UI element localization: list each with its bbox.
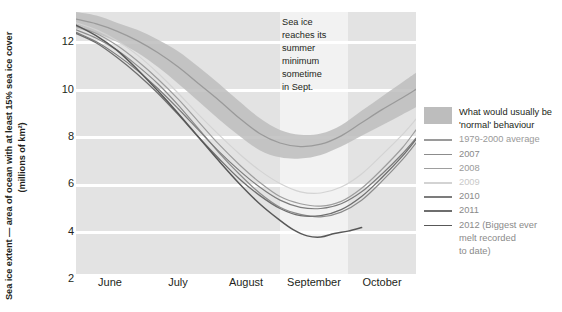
plot-area: Sea ice reaches its summer minimum somet… [76,12,416,274]
annotation-line-6: in Sept. [282,81,346,94]
x-tick-september: September [287,276,341,288]
legend-swatch-2008 [424,162,452,175]
legend-label-2007: 2007 [459,148,480,161]
y-axis-title-line-2-text: (millions of km²) [17,42,27,274]
chart-figure: Sea ice extent — area of ocean with at l… [0,0,562,312]
legend-label-2012-line-1: 2012 (Biggest ever [459,219,537,232]
legend-swatch-2009 [424,176,452,189]
legend-label-average: 1979-2000 average [459,133,540,146]
y-tick-8: 8 [50,131,74,142]
y-tick-6: 6 [50,178,74,189]
y-axis-tick-labels: 12 10 8 6 4 2 [46,0,74,312]
legend-label-2008: 2008 [459,162,480,175]
x-tick-august: August [229,276,263,288]
legend-swatch-2011 [424,204,452,217]
legend-label-normal-band-line-1: What would usually be [459,106,552,119]
annotation-line-4: minimum [282,55,346,68]
legend-item-2011: 2011 [424,204,560,217]
normal-range-band [76,12,416,159]
y-axis-title: Sea ice extent — area of ocean with at l… [0,0,46,300]
legend-swatch-average [424,133,452,146]
legend-item-2010: 2010 [424,190,560,203]
y-tick-10: 10 [50,84,74,95]
legend-label-normal-band-line-2: 'normal' behaviour [459,119,552,132]
legend-label-2012: 2012 (Biggest ever melt recorded to date… [459,219,537,259]
legend-item-band: What would usually be 'normal' behaviour [424,106,560,132]
y-axis-title-line-2: (millions of km²) [17,15,27,300]
legend-swatch-normal-band [424,107,452,124]
annotation-line-2: reaches its [282,29,346,42]
annotation-line-3: summer [282,42,346,55]
x-tick-july: July [168,276,188,288]
y-tick-2: 2 [50,273,74,284]
x-tick-june: June [98,276,122,288]
x-tick-october: October [362,276,401,288]
legend-label-normal-band: What would usually be 'normal' behaviour [459,106,552,132]
y-tick-4: 4 [50,226,74,237]
legend-swatch-2012 [424,219,452,232]
y-axis-title-line-1: Sea ice extent — area of ocean with at l… [4,15,14,300]
legend-item-2012: 2012 (Biggest ever melt recorded to date… [424,219,560,259]
chart-svg [76,12,416,274]
legend-item-average: 1979-2000 average [424,133,560,146]
chart-legend: What would usually be 'normal' behaviour… [424,106,560,259]
legend-label-2010: 2010 [459,190,480,203]
legend-item-2009: 2009 [424,176,560,189]
annotation-note: Sea ice reaches its summer minimum somet… [282,16,346,94]
legend-label-2012-line-2: melt recorded [459,232,537,245]
legend-swatch-2007 [424,148,452,161]
annotation-line-1: Sea ice [282,16,346,29]
y-tick-12: 12 [50,36,74,47]
legend-item-2008: 2008 [424,162,560,175]
legend-swatch-2010 [424,190,452,203]
annotation-line-5: sometime [282,68,346,81]
legend-label-2011: 2011 [459,204,479,217]
legend-label-2012-line-3: to date) [459,245,537,258]
legend-label-2009: 2009 [459,176,480,189]
legend-item-2007: 2007 [424,148,560,161]
x-axis-tick-labels: June July August September October [76,276,416,298]
